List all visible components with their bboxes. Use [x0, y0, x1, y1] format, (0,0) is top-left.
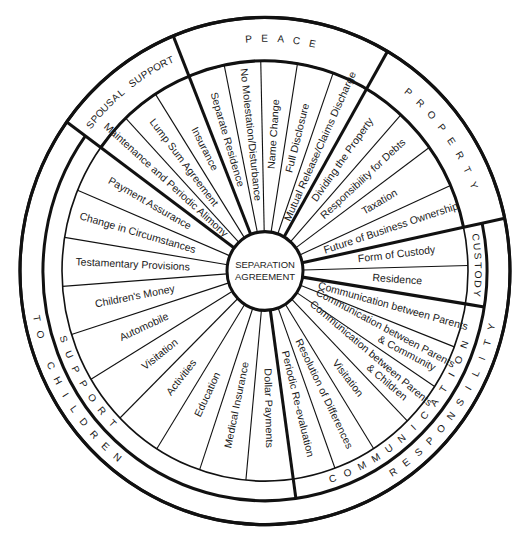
svg-text:S: S: [58, 334, 70, 344]
svg-text:L: L: [470, 368, 482, 378]
svg-text:I: I: [446, 371, 457, 379]
svg-text:T: T: [31, 314, 43, 322]
svg-text:Y: Y: [472, 289, 483, 297]
svg-text:E: E: [99, 440, 111, 453]
item-label: Children's Money: [94, 282, 176, 310]
svg-text:S: S: [472, 252, 483, 260]
children-support-item: Children's Money: [94, 282, 176, 310]
spousal-support-ring-label: SPOUSAL SUPPORT: [84, 54, 175, 131]
item-label: Medical Insurance: [221, 360, 250, 449]
children-support-item: Activities: [163, 357, 198, 398]
band-divider: [482, 218, 504, 223]
svg-text:C: C: [418, 409, 431, 422]
svg-text:P: P: [77, 378, 90, 390]
svg-text:S: S: [454, 396, 467, 408]
peace-item: Name Change: [265, 99, 281, 170]
wheel-root: Separate ResidenceNo Molestation/Disturb…: [20, 17, 510, 524]
svg-text:T: T: [473, 262, 484, 269]
svg-text:D: D: [472, 280, 483, 288]
svg-text:R: R: [414, 96, 427, 109]
svg-text:R: R: [454, 149, 467, 161]
band-divider: [367, 51, 388, 89]
outer-band-label: TO CHILDREN: [31, 314, 123, 463]
svg-text:P: P: [245, 33, 253, 44]
svg-text:U: U: [471, 242, 482, 251]
svg-text:U: U: [383, 442, 395, 455]
svg-text:T: T: [461, 165, 473, 175]
svg-text:I: I: [476, 355, 487, 362]
band-divider: [466, 304, 485, 307]
item-divider: [246, 310, 262, 480]
svg-text:P: P: [436, 121, 449, 133]
custody-ring-label: CUSTODY: [470, 233, 484, 298]
item-label: Automobile: [117, 310, 170, 343]
children-support-ring-label: SUPPORT: [58, 334, 119, 429]
svg-text:O: O: [34, 329, 46, 340]
children-support-item: Medical Insurance: [221, 360, 250, 449]
svg-text:U: U: [63, 349, 76, 360]
svg-text:R: R: [96, 404, 109, 417]
svg-text:E: E: [400, 456, 412, 469]
item-divider: [303, 266, 468, 270]
svg-text:R: R: [88, 428, 101, 441]
svg-text:P: P: [403, 85, 415, 98]
item-label: Form of Custody: [357, 243, 436, 264]
svg-text:T: T: [107, 417, 119, 429]
item-label: Visitation: [331, 357, 367, 399]
svg-text:R: R: [387, 465, 399, 478]
svg-text:O: O: [425, 108, 438, 122]
svg-text:M: M: [369, 451, 382, 465]
item-divider: [120, 299, 238, 418]
item-label: Name Change: [265, 99, 281, 170]
band-divider: [464, 223, 483, 227]
children-support-item: Testamentary Provisions: [75, 255, 190, 272]
svg-text:L: L: [68, 403, 80, 414]
svg-text:N: N: [444, 410, 457, 423]
svg-text:T: T: [437, 383, 449, 394]
item-label: Future of Business Ownership: [322, 199, 459, 255]
svg-text:T: T: [481, 338, 493, 347]
svg-text:O: O: [434, 422, 447, 435]
custody-item: Residence: [372, 271, 422, 286]
svg-text:N: N: [458, 339, 470, 350]
children-support-item: Visitation: [139, 336, 180, 372]
item-label: Testamentary Provisions: [75, 255, 190, 272]
svg-text:N: N: [395, 432, 407, 445]
custody-item: Form of Custody: [357, 243, 436, 264]
band-divider: [293, 479, 296, 498]
svg-text:O: O: [473, 270, 484, 278]
children-support-item: Dollar Payments: [263, 368, 276, 448]
svg-text:M: M: [356, 459, 368, 473]
band-divider: [173, 36, 189, 76]
svg-text:E: E: [261, 33, 268, 44]
children-support-item: Automobile: [117, 310, 170, 343]
item-label: Residence: [372, 271, 422, 286]
svg-text:D: D: [77, 416, 90, 429]
svg-text:I: I: [409, 422, 418, 432]
peace-ring-label: PEACE: [245, 33, 317, 50]
svg-text:C: C: [470, 233, 482, 242]
svg-text:C: C: [292, 35, 301, 47]
item-label: Activities: [163, 357, 198, 398]
svg-text:E: E: [445, 135, 458, 147]
svg-text:C: C: [327, 472, 337, 485]
svg-text:E: E: [308, 37, 317, 49]
svg-text:A: A: [277, 33, 285, 44]
communication-item: Visitation: [331, 357, 367, 399]
item-label: Dollar Payments: [263, 368, 276, 448]
property-ring-label: PROPERTY: [403, 85, 481, 190]
svg-text:P: P: [70, 364, 83, 375]
center-title: SEPARATIONAGREEMENT: [235, 259, 295, 282]
svg-text:P: P: [424, 434, 436, 447]
svg-text:Y: Y: [468, 180, 480, 191]
item-label: Education: [192, 370, 223, 419]
item-label: Visitation: [139, 336, 180, 372]
svg-text:O: O: [86, 391, 99, 404]
svg-text:O: O: [342, 466, 354, 479]
svg-text:S: S: [412, 445, 424, 458]
children-support-item: Education: [192, 370, 223, 419]
svg-text:N: N: [111, 451, 123, 464]
svg-text:Y: Y: [485, 322, 497, 332]
item-divider: [63, 274, 228, 287]
svg-text:C: C: [45, 360, 58, 371]
